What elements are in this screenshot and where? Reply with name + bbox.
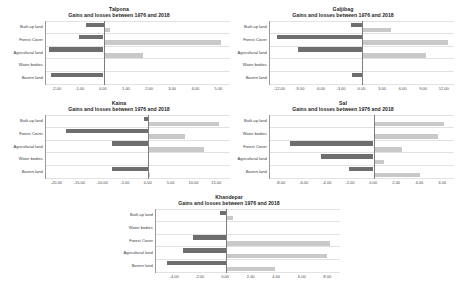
x-tick-label: -20.00 [51,181,62,185]
category-label: Built-up land [118,209,155,222]
x-tick-label: 2.00 [145,87,153,91]
zero-axis-line [374,115,375,179]
bar-loss [51,73,104,77]
x-tick-label: 9.00 [419,87,427,91]
chart-panel-talpona: TalponaGains and losses between 1976 and… [8,6,230,94]
bar-gain [374,147,403,151]
category-label: Forest Cover [232,34,269,47]
x-tick-label: 0.00 [99,87,107,91]
bar-loss [351,23,362,27]
chart-panel-kaina: KainaGains and losses between 1976 and 2… [8,100,230,188]
category-label: Forest Cover [232,141,269,154]
bar-loss [86,23,103,27]
x-axis-sal: -8.00-6.00-4.00-2.000.002.004.006.00 [269,179,454,188]
chart-subtitle-sal: Gains and losses between 1976 and 2018 [232,106,454,113]
bar-gain [104,28,110,32]
chart-panel-khandepar: KhandeparGains and losses between 1976 a… [118,194,340,282]
category-label: Water bodies [8,153,45,166]
x-tick-label: -10.00 [96,181,107,185]
bar-row [270,166,454,179]
category-label: Barren land [232,166,269,179]
category-axis-galjibag: Built-up landForest CoverAgricultural la… [232,21,269,85]
chart-subtitle-talpona: Gains and losses between 1976 and 2018 [8,12,230,19]
bar-row [156,247,340,260]
category-label: Agricultural land [8,141,45,154]
bar-gain [148,134,184,138]
bar-loss [79,35,103,39]
plot-area-talpona: Built-up landForest CoverAgricultural la… [8,21,230,85]
bars-region-talpona [45,21,230,85]
bar-gain [374,160,384,164]
bar-loss [349,167,373,171]
bar-gain [362,40,448,44]
x-tick-label: 5.00 [215,87,223,91]
bar-row [156,235,340,248]
bar-gain [362,53,426,57]
category-label: Barren land [8,166,45,179]
x-tick-label: 2.00 [247,275,255,279]
x-tick-label: -6.00 [316,87,325,91]
category-label: Built-up land [232,115,269,128]
x-tick-label: -5.00 [120,181,129,185]
category-label: Agricultural land [232,153,269,166]
x-tick-label: -1.00 [75,87,84,91]
bar-loss [298,47,362,51]
x-tick-label: -4.00 [170,275,179,279]
plot-area-kaina: Built-up landForest CoverAgricultural la… [8,115,230,179]
x-tick-label: 15.00 [211,181,221,185]
bar-gain [104,53,143,57]
chart-subtitle-khandepar: Gains and losses between 1976 and 2018 [118,200,340,207]
x-axis-khandepar: -4.00-2.000.002.004.006.008.00 [155,273,340,282]
bar-row [46,47,230,60]
category-label: Water bodies [8,59,45,72]
category-label: Barren land [8,72,45,85]
bar-gain [148,122,219,126]
bar-loss [183,248,226,252]
x-axis-kaina: -20.00-15.00-10.00-5.000.005.0010.0015.0… [45,179,230,188]
category-label: Water bodies [232,128,269,141]
bar-gain [362,28,391,32]
x-tick-label: -2.00 [52,87,61,91]
x-tick-label: 4.00 [191,87,199,91]
bar-loss [49,47,103,51]
x-tick-label: 4.00 [272,275,280,279]
x-tick-label: -2.00 [195,275,204,279]
bar-row [46,34,230,47]
bar-row [270,153,454,166]
category-label: Barren land [118,260,155,273]
bar-row [270,141,454,154]
category-label: Agricultural land [8,47,45,60]
bars-region-kaina [45,115,230,179]
x-tick-label: 0.00 [358,87,366,91]
bar-loss [112,167,148,171]
chart-subtitle-galjibag: Gains and losses between 1976 and 2018 [232,12,454,19]
bar-loss [277,35,362,39]
category-axis-sal: Built-up landWater bodiesForest CoverAgr… [232,115,269,179]
category-label: Forest Cover [8,34,45,47]
bars-region-khandepar [155,209,340,273]
x-tick-label: 0.00 [221,275,229,279]
bar-row [46,21,230,34]
bar-gain [374,122,444,126]
bar-row [46,115,230,128]
x-tick-label: 5.00 [167,181,175,185]
bar-gain [374,173,420,177]
category-axis-khandepar: Built-up landWater bodiesForest CoverAgr… [118,209,155,273]
zero-axis-line [148,115,149,179]
category-label: Water bodies [232,59,269,72]
category-label: Forest Cover [8,128,45,141]
bar-row [270,128,454,141]
x-tick-label: 3.00 [378,87,386,91]
category-label: Water bodies [118,222,155,235]
figure-canvas: TalponaGains and losses between 1976 and… [0,0,457,284]
x-tick-label: -15.00 [74,181,85,185]
bars-region-galjibag [269,21,454,85]
x-tick-label: -3.00 [336,87,345,91]
bar-gain [226,216,233,220]
x-tick-label: -9.00 [295,87,304,91]
bar-row [156,209,340,222]
x-tick-label: 1.00 [122,87,130,91]
x-tick-label: 10.00 [188,181,198,185]
plot-area-khandepar: Built-up landWater bodiesForest CoverAgr… [118,209,340,273]
category-axis-kaina: Built-up landForest CoverAgricultural la… [8,115,45,179]
